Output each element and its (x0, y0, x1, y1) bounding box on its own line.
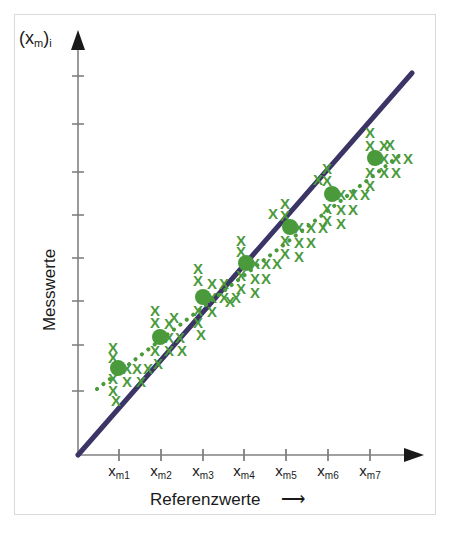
x-axis-title: Referenzwerte ⟶ (150, 489, 305, 510)
scatter-marker-x_m2-6: X (169, 309, 179, 326)
x-tick-label-x_m1: xm1 (108, 462, 129, 479)
x-tick-base: x (108, 462, 116, 479)
x-tick-sub: m7 (367, 470, 381, 481)
mean-marker-x_m1 (110, 360, 126, 376)
x-tick-sub: m3 (200, 470, 214, 481)
axes-group (71, 30, 424, 462)
scatter-marker-x_m2-1: X (150, 314, 160, 331)
scatter-marker-x_m5-10: X (268, 205, 278, 222)
mean-marker-x_m5 (282, 219, 298, 235)
scatter-marker-x_m7-10: X (385, 136, 395, 153)
scatter-marker-x_m5-3: X (280, 245, 290, 262)
scatter-marker-x_m4-8: X (261, 270, 271, 287)
scatter-marker-x_m6-10: X (313, 171, 323, 188)
x-tick-label-x_m2: xm2 (150, 462, 171, 479)
scatter-marker-x_m1-9: X (111, 392, 121, 409)
plot-canvas: XXXXXXXXXXXXXXXXXXXXXXXXXXXXXXXXXXXXXXXX… (0, 0, 452, 537)
x-tick-base: x (192, 462, 200, 479)
x-tick-sub: m6 (325, 470, 339, 481)
x-tick-base: x (317, 462, 325, 479)
x-tick-base: x (150, 462, 158, 479)
x-tick-base: x (359, 462, 367, 479)
y-axis-symbol-sub-i: i (49, 37, 51, 49)
x-axis-arrow-icon: ⟶ (281, 489, 305, 510)
scatter-marker-x_m3-7: X (207, 275, 217, 292)
y-axis-arrowhead-icon (71, 30, 85, 50)
x-tick-base: x (275, 462, 283, 479)
x-axis-arrowhead-icon (404, 448, 424, 462)
mean-marker-x_m6 (324, 186, 340, 202)
scatter-marker-x_m2-7: X (164, 342, 174, 359)
scatter-marker-x_m4-10: X (225, 293, 235, 310)
scatter-marker-x_m2-8: X (177, 342, 187, 359)
y-axis-symbol-label: (xm)i (19, 28, 52, 49)
scatter-marker-x_m7-7: X (379, 164, 389, 181)
x-tick-label-x_m4: xm4 (233, 462, 254, 479)
scatter-marker-x_m4-9: X (250, 284, 260, 301)
scatter-marker-x_m2-9: X (153, 355, 163, 372)
scatter-marker-x_m5-8: X (306, 234, 316, 251)
scatter-marker-x_m7-6: X (403, 150, 413, 167)
scatter-marker-x_m7-8: X (391, 164, 401, 181)
x-tick-sub: m5 (283, 470, 297, 481)
x-tick-sub: m1 (116, 470, 130, 481)
mean-marker-x_m4 (238, 255, 254, 271)
x-axis-title-text: Referenzwerte (150, 490, 261, 509)
scatter-marker-x_m1-8: X (136, 373, 146, 390)
x-tick-base: x (233, 462, 241, 479)
scatter-marker-x_m3-9: X (207, 303, 217, 320)
y-axis-symbol-sub-m: m (34, 37, 43, 49)
x-tick-label-x_m5: xm5 (275, 462, 296, 479)
y-axis-symbol-open: (x (19, 28, 34, 48)
scatter-marker-x_m3-10: X (196, 326, 206, 343)
scatter-marker-x_m7-3: X (365, 177, 375, 194)
scatter-marker-x_m3-1: X (193, 272, 203, 289)
mean-marker-x_m2 (152, 329, 168, 345)
x-axis-tick-labels: xm1xm2xm3xm4xm5xm6xm7 (0, 462, 452, 486)
y-axis-title: Messwerte (40, 230, 60, 350)
scatter-marker-x_m1-7: X (122, 373, 132, 390)
x-tick-label-x_m3: xm3 (192, 462, 213, 479)
scatter-marker-x_m6-1: X (322, 172, 332, 189)
scatter-marker-x_m6-9: X (336, 215, 346, 232)
scatter-points: XXXXXXXXXXXXXXXXXXXXXXXXXXXXXXXXXXXXXXXX… (108, 124, 413, 409)
scatter-marker-x_m3-8: X (219, 275, 229, 292)
scatter-marker-x_m6-3: X (322, 212, 332, 229)
x-tick-sub: m4 (241, 470, 255, 481)
scatter-marker-x_m5-9: X (294, 248, 304, 265)
scatter-marker-x_m6-8: X (348, 201, 358, 218)
mean-marker-x_m7 (367, 150, 383, 166)
x-tick-label-x_m6: xm6 (317, 462, 338, 479)
x-tick-label-x_m7: xm7 (359, 462, 380, 479)
mean-marker-x_m3 (195, 289, 211, 305)
scatter-marker-x_m4-3: X (236, 280, 246, 297)
x-tick-sub: m2 (158, 470, 172, 481)
figure-container: XXXXXXXXXXXXXXXXXXXXXXXXXXXXXXXXXXXXXXXX… (0, 0, 452, 537)
